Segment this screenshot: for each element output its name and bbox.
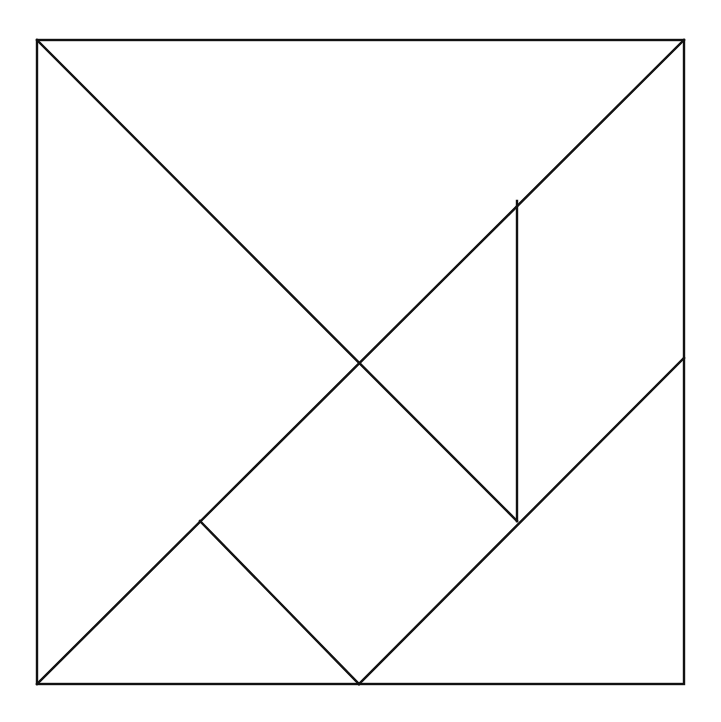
tangram-diagram [0, 0, 721, 722]
